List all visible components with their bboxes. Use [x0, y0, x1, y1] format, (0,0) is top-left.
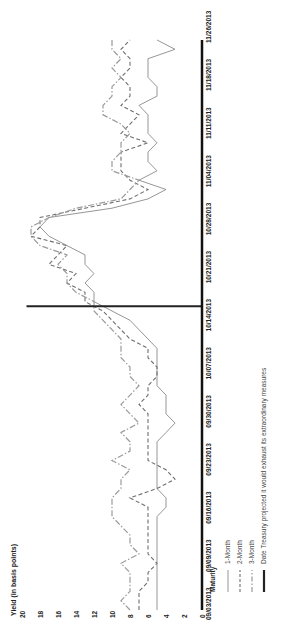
x-tick-label: 09/16/2013 [205, 491, 212, 524]
x-tick-label: 11/18/2013 [205, 58, 212, 91]
legend-label: Date Treasury projected it would exhaust… [260, 367, 268, 564]
y-tick-label: 2 [181, 614, 188, 618]
yield-line-chart: Yield (in basis points) 0246810121416182… [0, 0, 283, 622]
y-tick-label: 18 [37, 610, 44, 618]
legend-label: 1-Month [224, 540, 231, 564]
x-tick-label: 10/21/2013 [205, 250, 212, 283]
legend-title: Maturity [209, 566, 217, 592]
y-axis-label: Yield (in basis points) [10, 544, 18, 616]
rotated-chart: Yield (in basis points) 0246810121416182… [0, 0, 283, 622]
series-line-2-month [31, 40, 175, 610]
x-tick-label: 11/26/2013 [205, 10, 212, 43]
series-lines [31, 40, 175, 610]
x-tick-label: 09/23/2013 [205, 443, 212, 476]
x-tick-label: 10/28/2013 [205, 202, 212, 235]
series-line-3-month [31, 40, 139, 610]
y-axis-ticks: 02468101214161820 [19, 610, 206, 618]
y-tick-label: 8 [127, 614, 134, 618]
x-tick-label: 10/07/2013 [205, 347, 212, 380]
y-tick-label: 16 [55, 610, 62, 618]
y-tick-label: 4 [163, 614, 170, 618]
legend-label: 2-Month [236, 540, 243, 564]
x-tick-label: 09/30/2013 [205, 395, 212, 428]
y-tick-label: 14 [73, 610, 80, 618]
chart-frame: Yield (in basis points) 0246810121416182… [0, 0, 283, 622]
y-tick-label: 20 [19, 610, 26, 618]
legend: 1-Month2-Month3-MonthDate Treasury proje… [224, 367, 268, 592]
x-tick-label: 11/11/2013 [205, 107, 212, 139]
x-tick-label: 09/03/2013 [205, 587, 212, 620]
x-tick-label: 11/04/2013 [205, 155, 212, 188]
y-tick-label: 6 [145, 614, 152, 618]
x-axis-ticks: 09/03/201309/09/201309/16/201309/23/2013… [205, 10, 212, 620]
legend-label: 3-Month [248, 540, 255, 564]
x-tick-label: 10/14/2013 [205, 299, 212, 332]
y-tick-label: 12 [91, 610, 98, 618]
y-tick-label: 10 [109, 610, 116, 618]
